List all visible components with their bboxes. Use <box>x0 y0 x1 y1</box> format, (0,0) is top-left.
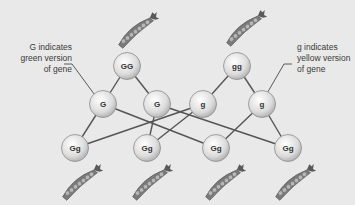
pea-pod-icon <box>57 162 109 201</box>
svg-text:g: g <box>260 100 265 109</box>
svg-text:g: g <box>201 100 206 109</box>
offspring-node: Gg <box>134 135 161 162</box>
svg-text:Gg: Gg <box>210 144 221 153</box>
pea-pod-icon <box>127 162 179 201</box>
parent-node: GG <box>114 53 141 80</box>
offspring-node: Gg <box>203 135 230 162</box>
svg-text:Gg: Gg <box>141 144 152 153</box>
svg-text:G: G <box>154 100 160 109</box>
svg-text:G: G <box>100 100 106 109</box>
pea-pod-icon <box>270 162 322 201</box>
nodes: GGggGGggGgGgGgGg <box>62 53 302 162</box>
svg-text:Gg: Gg <box>69 144 80 153</box>
offspring-node: Gg <box>275 135 302 162</box>
gamete-node: g <box>249 91 276 118</box>
svg-text:GG: GG <box>121 62 133 71</box>
svg-text:Gg: Gg <box>282 144 293 153</box>
gamete-node: g <box>190 91 217 118</box>
svg-text:gg: gg <box>232 62 242 71</box>
pea-pod-icon <box>113 10 165 49</box>
offspring-node: Gg <box>62 135 89 162</box>
gamete-node: G <box>90 91 117 118</box>
parent-node: gg <box>224 53 251 80</box>
pea-pod-icon <box>200 162 252 201</box>
gamete-node: G <box>144 91 171 118</box>
pea-pod-icon <box>221 8 273 47</box>
